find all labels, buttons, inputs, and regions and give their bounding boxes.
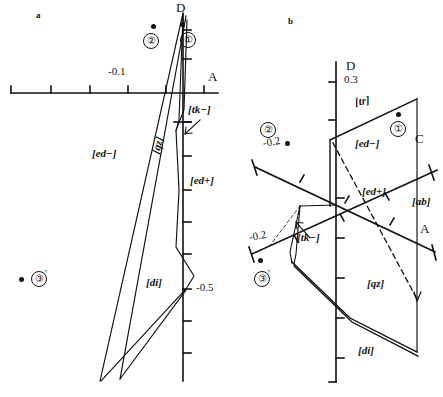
panel-a-axis-A — [11, 86, 218, 93]
panel-a-curve-spike — [176, 14, 183, 131]
panel-b-axis-A — [252, 160, 436, 260]
panel-b-label-ed-minus: [ed−] — [355, 138, 379, 149]
panel-a-axis-A-label: A — [208, 70, 217, 83]
panel-a-dot-2 — [151, 24, 156, 29]
panel-a-tick-label-0: -0.1 — [108, 66, 125, 77]
panel-b-axis-C-label: C — [415, 132, 424, 145]
panel-b-marker-3-prime: ' — [268, 268, 270, 279]
panel-b-letter: b — [288, 17, 293, 26]
panel-b-label-di: [di] — [358, 345, 374, 356]
panel-b-label-ab: [ab] — [412, 196, 430, 207]
panel-b-curve-di — [292, 262, 418, 356]
panel-b-tick-label-0: 0.3 — [344, 74, 358, 85]
panel-a-label-tk-minus: [tk−] — [188, 104, 211, 115]
panel-b-axis-D — [329, 62, 344, 382]
panel-a-marker-3-prime: ' — [45, 268, 47, 279]
panel-b-marker-1: ① — [390, 121, 406, 137]
panel-a-label-ed-plus: [ed+] — [190, 175, 214, 186]
panel-a-marker-1: ① — [180, 32, 196, 48]
panel-a-curve-di — [120, 290, 186, 379]
panel-b-axis-D-label: D — [346, 59, 355, 72]
panel-a-dot-3 — [19, 277, 24, 282]
panel-a-letter: a — [36, 11, 41, 20]
panel-a-label-di: [di] — [146, 277, 162, 288]
panel-a-marker-2: ② — [143, 33, 159, 49]
panel-b-marker-2: ② — [260, 122, 276, 138]
panel-a-dot-1 — [180, 22, 185, 27]
panel-b-dot-3 — [258, 258, 263, 263]
figure-container: a D A -0.1 -0.5 ② ① ③ ' [tk−] [ed−] [ed+… — [0, 0, 443, 397]
panel-b-dot-1 — [396, 112, 401, 117]
panel-b-curve-qz — [333, 143, 417, 299]
panel-a-label-ed-minus: [ed−] — [92, 148, 116, 159]
panel-a-axis-D — [183, 14, 191, 381]
panel-a-axis-D-label: D — [176, 1, 185, 14]
panel-b-label-qz: [qz] — [367, 278, 384, 289]
panel-b-label-tk-minus: [tk−] — [297, 232, 320, 243]
panel-b-label-ed-plus: [ed+] — [362, 186, 386, 197]
panel-a-tick-label-1: -0.5 — [196, 282, 213, 293]
panel-b-axis-A-label: A — [420, 222, 429, 235]
panel-b-dot-2 — [285, 141, 290, 146]
figure-svg — [0, 0, 443, 397]
panel-b-axis-C — [249, 165, 437, 262]
